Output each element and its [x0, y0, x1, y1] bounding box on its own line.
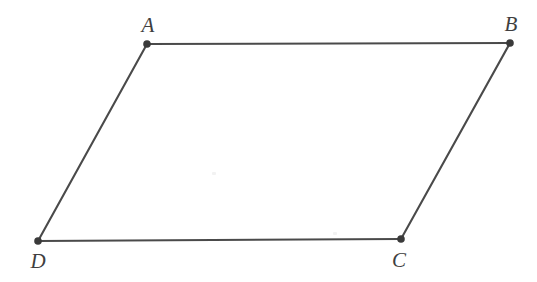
vertex-label-a: A: [142, 15, 155, 36]
vertex-dot-a: [143, 40, 151, 48]
parallelogram-svg: [0, 0, 537, 282]
edge-da: [38, 44, 147, 241]
edge-cd: [38, 239, 401, 241]
edge-ab: [147, 43, 510, 44]
edge-bc: [401, 43, 510, 239]
scan-artifact: [212, 172, 216, 175]
vertex-dot-d: [34, 237, 42, 245]
vertex-dot-b: [506, 39, 514, 47]
vertex-label-b: B: [505, 14, 518, 35]
vertex-label-c: C: [392, 250, 406, 271]
edges-group: [38, 43, 510, 241]
vertex-dots-group: [34, 39, 514, 245]
vertex-label-d: D: [30, 251, 45, 272]
vertex-dot-c: [397, 235, 405, 243]
scan-artifact: [333, 232, 337, 235]
geometry-figure-canvas: ABCD: [0, 0, 537, 282]
